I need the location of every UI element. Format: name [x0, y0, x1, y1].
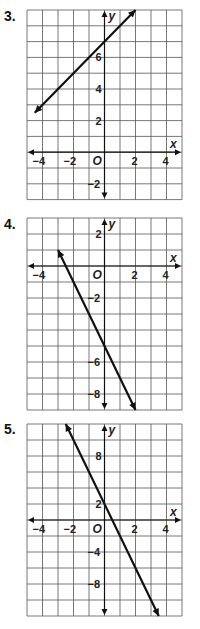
- svg-text:−6: −6: [88, 356, 101, 368]
- svg-text:−4: −4: [33, 523, 46, 535]
- svg-text:2: 2: [96, 228, 102, 240]
- svg-text:−8: −8: [88, 578, 101, 590]
- svg-text:x: x: [169, 251, 178, 265]
- svg-text:2: 2: [96, 115, 102, 127]
- graph-3: 3. xyO−4−224−2246: [0, 0, 200, 210]
- coordinate-plane: xyO−424−8−6−22: [0, 210, 200, 415]
- graph-5: 5. xyO−4−224−8−428: [0, 415, 200, 629]
- svg-text:x: x: [169, 505, 178, 519]
- svg-text:−2: −2: [88, 178, 101, 190]
- svg-text:−4: −4: [33, 269, 46, 281]
- coordinate-plane: xyO−4−224−8−428: [0, 415, 200, 629]
- svg-text:y: y: [108, 217, 117, 231]
- svg-text:y: y: [108, 423, 117, 437]
- svg-text:4: 4: [163, 523, 170, 535]
- svg-text:2: 2: [132, 155, 138, 167]
- svg-text:−2: −2: [64, 523, 77, 535]
- svg-text:−2: −2: [64, 155, 77, 167]
- svg-text:O: O: [93, 154, 103, 168]
- svg-text:O: O: [93, 522, 103, 536]
- svg-text:−8: −8: [88, 388, 101, 400]
- svg-text:y: y: [108, 9, 117, 23]
- svg-text:6: 6: [96, 51, 102, 63]
- svg-text:4: 4: [163, 155, 170, 167]
- graph-4: 4. xyO−424−8−6−22: [0, 210, 200, 415]
- svg-text:4: 4: [163, 269, 170, 281]
- svg-text:−2: −2: [88, 292, 101, 304]
- svg-text:x: x: [169, 137, 178, 151]
- coordinate-plane: xyO−4−224−2246: [0, 0, 200, 210]
- svg-text:4: 4: [96, 83, 103, 95]
- svg-text:O: O: [93, 268, 103, 282]
- svg-text:2: 2: [96, 498, 102, 510]
- svg-text:8: 8: [96, 450, 102, 462]
- svg-text:2: 2: [132, 523, 138, 535]
- svg-text:2: 2: [132, 269, 138, 281]
- svg-text:−4: −4: [33, 155, 46, 167]
- svg-text:−4: −4: [88, 546, 101, 558]
